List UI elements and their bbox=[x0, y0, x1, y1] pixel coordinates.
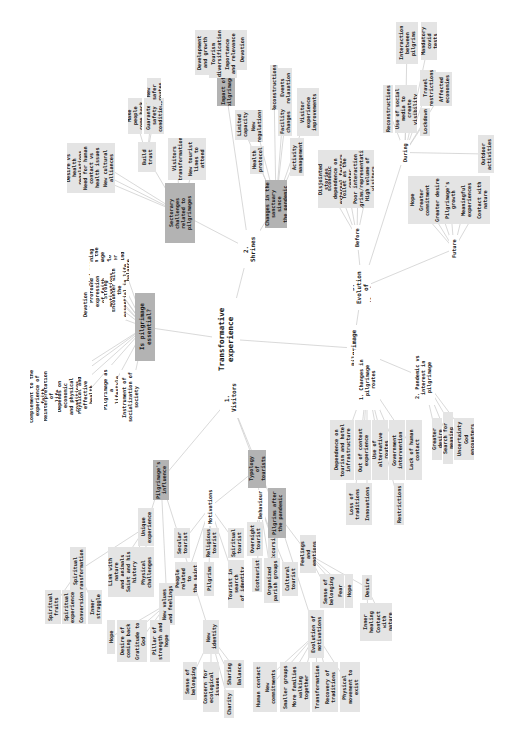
node-em: Evolution of motivations bbox=[308, 610, 324, 658]
edge-during-d8 bbox=[405, 153, 486, 155]
node-t11: Cultural tourist bbox=[282, 562, 298, 596]
edge-center-pilgrimage bbox=[226, 339, 353, 348]
node-c1: Limited capacity bbox=[235, 110, 249, 140]
node-i2: Tourism diversification bbox=[209, 30, 223, 78]
node-n4: Balance bbox=[234, 660, 244, 688]
node-u5: Spiritual fruits bbox=[45, 590, 61, 624]
node-i3: Importance and relevance bbox=[223, 30, 237, 78]
node-r3: Use of alternative routes bbox=[372, 420, 388, 480]
node-r1: Dependence on tourism and hotel infrastr… bbox=[330, 420, 354, 480]
node-d4: Lockdown bbox=[420, 108, 430, 136]
node-chg: Changes in the sanctuary since the pande… bbox=[265, 180, 287, 228]
node-u6: Spiritual experience bbox=[62, 590, 76, 624]
node-c5: Events relaxation bbox=[278, 68, 292, 108]
node-infl: Pilgrimage's influence bbox=[153, 460, 169, 500]
node-r7: Innovations bbox=[362, 483, 372, 525]
node-bt: Build trust bbox=[138, 142, 156, 172]
node-t2: Religious tourist bbox=[203, 528, 219, 558]
node-imp: Impact of pilgrimage bbox=[217, 76, 235, 106]
edge-evo-future bbox=[362, 249, 454, 288]
node-d6: Mandatory covid tests bbox=[421, 22, 437, 60]
node-e9: Complement to the experience of faith bbox=[30, 365, 44, 427]
node-e7: Strong motivations bbox=[104, 262, 112, 317]
node-r2: Out of context experience bbox=[355, 420, 371, 480]
node-v3: Gratitude to God bbox=[133, 620, 147, 662]
node-vt: Visitors transformation bbox=[168, 138, 186, 180]
node-e13: Pilgrimage as a lifestyle bbox=[104, 365, 118, 415]
node-e11: Depends on economic and physical conditi… bbox=[58, 365, 78, 427]
node-visitors: 1. Visitors bbox=[220, 378, 240, 418]
node-v1: Hope bbox=[107, 620, 115, 654]
node-evo: 3. Evolution of pilgrimages bbox=[353, 265, 371, 310]
node-u3: Saint and his history bbox=[124, 547, 138, 597]
node-t8: Tourist in search of identity bbox=[228, 560, 244, 608]
node-bt3: New safer routes bbox=[147, 78, 161, 106]
node-f3: Greater desire bbox=[432, 176, 442, 224]
node-r4: Government intervention bbox=[389, 420, 405, 480]
node-s1: Desire vs health regulations bbox=[67, 143, 81, 193]
node-nid: New identity bbox=[203, 620, 219, 654]
node-mot: Motivations bbox=[205, 488, 215, 526]
node-u4: Physical challenges bbox=[138, 547, 154, 597]
node-m5: Transformation bbox=[312, 662, 322, 712]
node-m6: Recovery of traditions bbox=[322, 662, 338, 712]
node-before: Before bbox=[352, 225, 362, 250]
node-beh: Behaviour bbox=[255, 490, 265, 520]
node-n5: Charity bbox=[224, 690, 234, 718]
node-c4: Reconstructions bbox=[270, 65, 278, 110]
node-nvf: New values and feelings bbox=[159, 583, 175, 625]
node-n1: Sense of belonging bbox=[183, 662, 197, 700]
node-b1: Disjointed stories bbox=[318, 150, 328, 208]
node-e14: Instrument of socialization of society bbox=[120, 370, 140, 425]
node-m4: More families walking together bbox=[290, 662, 310, 712]
node-future: Future bbox=[449, 235, 459, 263]
node-t10: Organized parish groups bbox=[264, 558, 280, 603]
node-e10: Reinterpretation of life bbox=[44, 365, 58, 427]
node-i1: Development and growth bbox=[195, 30, 209, 75]
node-m7: Physical movement to exist bbox=[340, 662, 360, 712]
node-d5: Travel restrictions bbox=[420, 70, 436, 106]
node-d3: Interaction between pilgrims bbox=[396, 22, 418, 64]
node-t1: Secular tourist bbox=[174, 528, 190, 558]
node-fe1: Sense of belonging bbox=[320, 574, 336, 608]
node-e12: Physical and effective health bbox=[78, 360, 92, 430]
node-c8: Activity management bbox=[290, 138, 304, 176]
node-t6: People related to the saint bbox=[175, 562, 197, 596]
node-shrines: 2. Shrines bbox=[238, 230, 260, 268]
node-r8: Restrictions bbox=[394, 483, 404, 525]
node-u7: Conversion bbox=[76, 590, 86, 624]
node-t3: Spiritual tourist bbox=[228, 528, 244, 558]
node-t9: Ecotourist bbox=[252, 558, 262, 592]
node-e8: Encounter with the essential in life bbox=[112, 260, 126, 320]
node-u8: Inner struggle bbox=[88, 590, 102, 624]
node-paf: Pilgrims after the pandemic bbox=[268, 488, 286, 538]
node-typ: Typology of tourists bbox=[248, 450, 266, 488]
node-fe6: Contact with nature bbox=[376, 603, 392, 641]
node-d2: Use of social media to create visibility bbox=[395, 85, 417, 133]
node-d1: Reconstructions bbox=[383, 85, 393, 133]
node-f5: Meaningful experiences bbox=[458, 176, 474, 224]
node-t7: Pilgrims bbox=[204, 562, 214, 596]
node-fe: Feelings and emotions bbox=[300, 535, 316, 573]
node-f4: Pilgrimage's growth bbox=[442, 176, 458, 224]
node-bt1: Make people come back bbox=[128, 98, 142, 134]
node-c2: New regulations bbox=[249, 110, 263, 142]
node-s2: Need for human contact vs health issues bbox=[81, 143, 101, 193]
node-b4: Poor interaction pilgrims/representative… bbox=[351, 150, 365, 208]
node-p3: Uncertainty bbox=[454, 418, 464, 460]
node-d7: Affected economies bbox=[436, 72, 452, 106]
node-d8: Outdoor activities bbox=[478, 135, 494, 173]
node-pvi: 2. Pandemic vs interest in pilgrimage bbox=[411, 350, 435, 405]
node-e5: Devotion bbox=[81, 290, 89, 320]
node-fe4: Desire bbox=[362, 575, 372, 600]
node-i4: Devotion bbox=[237, 30, 247, 70]
node-r6: Loss of traditions bbox=[346, 483, 362, 525]
node-essential: Is pilgrimage essential? bbox=[135, 293, 155, 361]
node-routes: 1. Changes in pilgrimage routes bbox=[354, 350, 380, 410]
node-center: Transformative experience bbox=[212, 298, 240, 380]
node-f2: Greater commitment bbox=[416, 176, 432, 224]
node-v2: Desire of coming back bbox=[117, 620, 133, 662]
node-during: During bbox=[400, 140, 410, 165]
node-v4: Pillar of strength and hope bbox=[150, 620, 170, 662]
node-u2: Link with nature and animals bbox=[108, 547, 124, 597]
